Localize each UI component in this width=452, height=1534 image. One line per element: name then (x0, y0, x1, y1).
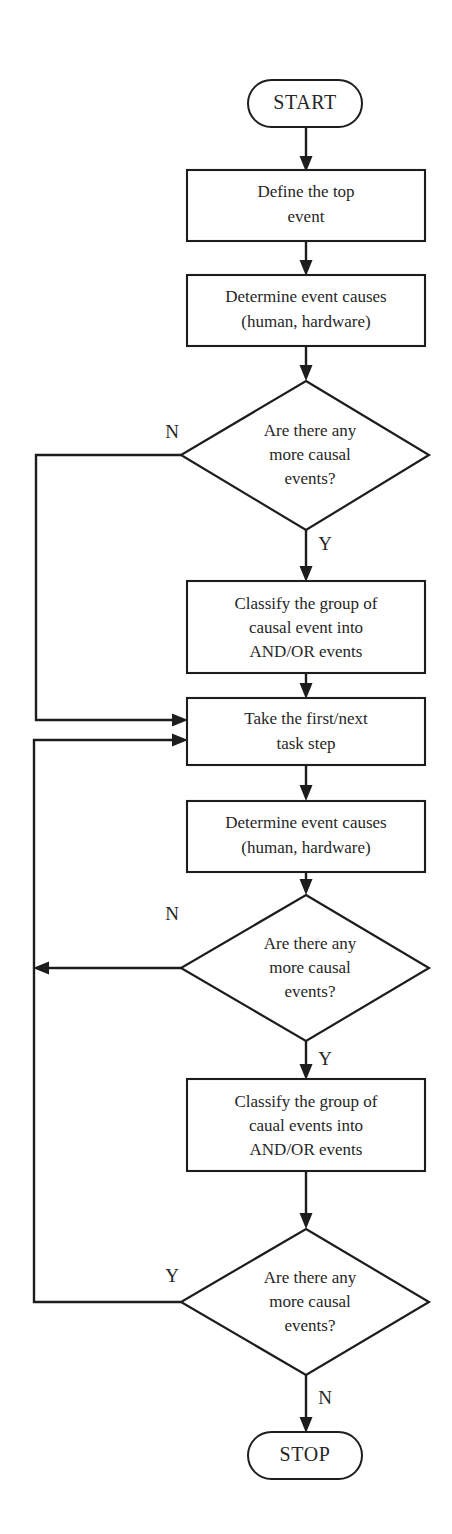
edge-decision-2-no-to-return-rail (33, 962, 181, 975)
edge-decision-2-yes-to-classify-2 (300, 1041, 313, 1080)
node-decision-causal-2-line-2: more causal (269, 958, 351, 977)
node-stop[interactable]: STOP (248, 1432, 362, 1479)
branch-label-decision-1-yes: Y (318, 533, 332, 554)
node-classify-2-line-2: caual events into (249, 1116, 363, 1135)
flowchart-diagram: START Define the top event Determine eve… (0, 0, 452, 1534)
node-define-top-event-line-2: event (288, 207, 325, 226)
node-classify-1-line-2: causal event into (249, 618, 363, 637)
node-classify-2-line-3: AND/OR events (250, 1140, 363, 1159)
edge-decision-1-no-to-take-task-step (36, 455, 188, 727)
node-decision-causal-3-line-3: events? (285, 1316, 336, 1335)
node-decision-causal-1-line-1: Are there any (264, 421, 357, 440)
node-decision-causal-3-line-1: Are there any (264, 1268, 357, 1287)
node-define-top-event[interactable]: Define the top event (187, 170, 425, 241)
node-decision-causal-1[interactable]: Are there any more causal events? (181, 381, 429, 530)
node-determine-causes-1-line-2: (human, hardware) (241, 312, 370, 331)
edge-decision-3-yes-to-take-task-step (34, 734, 188, 1303)
node-classify-2[interactable]: Classify the group of caual events into … (187, 1079, 425, 1171)
branch-label-decision-3-yes: Y (165, 1265, 179, 1286)
node-classify-1-line-3: AND/OR events (250, 642, 363, 661)
node-classify-2-line-1: Classify the group of (234, 1092, 377, 1111)
node-classify-1-line-1: Classify the group of (234, 594, 377, 613)
node-classify-1[interactable]: Classify the group of causal event into … (187, 581, 425, 673)
node-decision-causal-1-line-2: more causal (269, 445, 351, 464)
node-take-task-step-line-1: Take the first/next (244, 709, 368, 728)
edge-determine-causes-1-to-decision-1 (300, 346, 313, 381)
node-decision-causal-2-line-1: Are there any (264, 934, 357, 953)
node-start[interactable]: START (248, 80, 362, 127)
edge-classify-1-to-take-task-step (300, 673, 313, 699)
edge-determine-causes-2-to-decision-2 (300, 872, 313, 895)
flowchart-canvas: START Define the top event Determine eve… (0, 0, 452, 1534)
node-determine-causes-2[interactable]: Determine event causes (human, hardware) (187, 801, 425, 872)
node-decision-causal-3[interactable]: Are there any more causal events? (181, 1229, 429, 1375)
edge-classify-2-to-decision-3 (300, 1171, 313, 1229)
edge-define-to-determine-causes-1 (300, 241, 313, 276)
node-determine-causes-2-line-1: Determine event causes (225, 813, 386, 832)
node-start-label: START (273, 91, 337, 113)
node-determine-causes-1[interactable]: Determine event causes (human, hardware) (187, 275, 425, 346)
branch-label-decision-3-no: N (318, 1387, 332, 1408)
branch-label-decision-2-no: N (165, 903, 179, 924)
edge-decision-3-no-to-stop (300, 1375, 313, 1433)
edge-start-to-define-top-event (300, 127, 313, 172)
node-stop-label: STOP (280, 1443, 331, 1465)
node-decision-causal-2[interactable]: Are there any more causal events? (181, 895, 429, 1041)
node-take-task-step[interactable]: Take the first/next task step (187, 698, 425, 765)
node-determine-causes-1-line-1: Determine event causes (225, 287, 386, 306)
edge-take-task-step-to-determine-causes-2 (300, 765, 313, 801)
branch-label-decision-1-no: N (165, 421, 179, 442)
branch-label-decision-2-yes: Y (318, 1048, 332, 1069)
edge-decision-1-yes-to-classify-1 (300, 530, 313, 582)
node-decision-causal-3-line-2: more causal (269, 1292, 351, 1311)
node-define-top-event-line-1: Define the top (257, 182, 354, 201)
node-decision-causal-2-line-3: events? (285, 982, 336, 1001)
node-determine-causes-2-line-2: (human, hardware) (241, 838, 370, 857)
node-take-task-step-line-2: task step (276, 734, 335, 753)
node-decision-causal-1-line-3: events? (285, 469, 336, 488)
